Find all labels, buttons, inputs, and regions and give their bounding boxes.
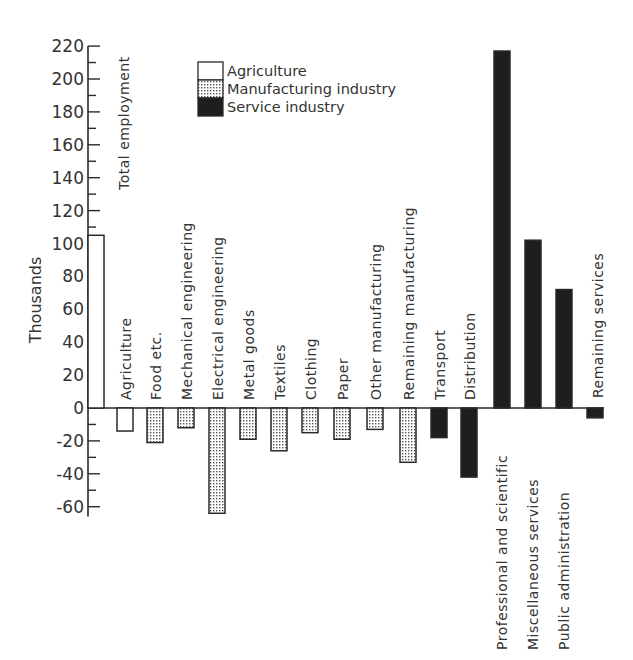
y-tick-label: -60 xyxy=(56,497,84,517)
y-tick-label: 200 xyxy=(52,69,84,89)
bar-professional-and-scientific xyxy=(494,51,510,408)
y-tick-label: 120 xyxy=(52,201,84,221)
y-axis-title: Thousands xyxy=(26,257,45,345)
bar-electrical-engineering xyxy=(209,408,225,513)
y-tick-label: -20 xyxy=(56,431,84,451)
legend-swatch-dotted xyxy=(198,80,223,98)
y-tick-label: 140 xyxy=(52,168,84,188)
category-label: Public administration xyxy=(556,492,572,650)
category-label: Remaining manufacturing xyxy=(401,207,417,400)
legend-swatch-open xyxy=(198,62,223,80)
bar-mechanical-engineering xyxy=(178,408,194,428)
category-label: Remaining services xyxy=(590,253,606,398)
bar-remaining-manufacturing xyxy=(400,408,416,462)
category-label: Paper xyxy=(335,358,351,400)
bar-total-employment xyxy=(88,235,104,408)
chart: 220200180160140120100806040200-20-40-60 … xyxy=(0,0,633,660)
category-label: Miscellaneous services xyxy=(525,479,541,650)
legend-label: Agriculture xyxy=(227,63,307,79)
category-label: Transport xyxy=(432,330,448,401)
legend: AgricultureManufacturing industryService… xyxy=(198,62,396,116)
bar-food-etc xyxy=(147,408,163,443)
y-tick-label: 220 xyxy=(52,36,84,56)
category-label: Distribution xyxy=(462,312,478,400)
bar-metal-goods xyxy=(240,408,256,439)
legend-swatch-solid xyxy=(198,98,223,116)
bar-remaining-services xyxy=(587,408,603,418)
bar-public-administration xyxy=(556,290,572,408)
category-label: Other manufacturing xyxy=(368,243,384,400)
category-label: Electrical engineering xyxy=(210,236,226,400)
y-tick-label: 40 xyxy=(62,332,84,352)
y-tick-label: 100 xyxy=(52,234,84,254)
y-tick-label: 80 xyxy=(62,266,84,286)
bar-miscellaneous-services xyxy=(525,240,541,408)
bar-other-manufacturing xyxy=(367,408,383,429)
y-tick-label: -40 xyxy=(56,464,84,484)
y-tick-label: 0 xyxy=(73,398,84,418)
bar-textiles xyxy=(271,408,287,451)
y-tick-label: 20 xyxy=(62,365,84,385)
category-label: Total employment xyxy=(116,56,132,191)
category-label: Clothing xyxy=(303,338,319,400)
category-label: Professional and scientific xyxy=(494,455,510,650)
y-tick-label: 160 xyxy=(52,135,84,155)
y-tick-label: 180 xyxy=(52,102,84,122)
category-label: Textiles xyxy=(272,344,288,401)
legend-label: Manufacturing industry xyxy=(227,81,396,97)
bar-clothing xyxy=(302,408,318,433)
y-tick-label: 60 xyxy=(62,299,84,319)
category-label: Metal goods xyxy=(241,309,257,400)
bar-agriculture xyxy=(117,408,133,431)
bar-paper xyxy=(334,408,350,439)
legend-label: Service industry xyxy=(227,99,345,115)
bar-distribution xyxy=(461,408,477,477)
category-label: Mechanical engineering xyxy=(179,222,195,400)
category-label: Food etc. xyxy=(148,331,164,400)
category-label: Agriculture xyxy=(118,318,134,401)
bar-transport xyxy=(431,408,447,438)
bars xyxy=(88,51,603,513)
